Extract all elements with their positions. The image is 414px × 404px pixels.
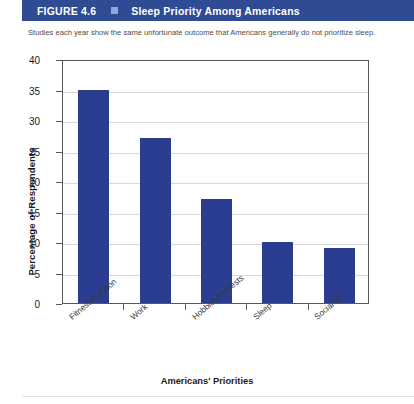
- figure-title: Sleep Priority Among Americans: [131, 5, 300, 17]
- bar: [262, 242, 293, 303]
- x-axis-category-label: Work: [128, 302, 149, 322]
- bar: [140, 138, 171, 303]
- y-axis-tick-label: 0: [0, 299, 40, 310]
- y-axis-tick-label: 5: [0, 268, 40, 279]
- x-axis-tick-mark: [123, 304, 124, 310]
- figure-number: FIGURE 4.6: [37, 5, 96, 17]
- y-axis-tick-label: 15: [0, 207, 40, 218]
- x-axis-tick-mark: [246, 304, 247, 310]
- y-axis-tick-label: 30: [0, 116, 40, 127]
- x-axis-title: Americans' Priorities: [0, 376, 414, 386]
- x-axis-tick-mark: [185, 304, 186, 310]
- bar: [78, 90, 109, 304]
- x-axis-tick-mark: [308, 304, 309, 310]
- y-axis-tick-label: 35: [0, 85, 40, 96]
- y-axis-tick-label: 20: [0, 177, 40, 188]
- square-marker-icon: [111, 7, 118, 14]
- bar-chart: Percentage of Respondents 05101520253035…: [0, 46, 414, 404]
- y-axis-tick-label: 10: [0, 238, 40, 249]
- figure-header-bar: FIGURE 4.6 Sleep Priority Among American…: [22, 0, 414, 21]
- plot-area: [62, 60, 369, 304]
- y-axis-tick-mark: [56, 304, 62, 305]
- bottom-divider: [22, 396, 414, 397]
- y-axis-tick-label: 25: [0, 146, 40, 157]
- y-axis-tick-label: 40: [0, 55, 40, 66]
- figure-caption: Studies each year show the same unfortun…: [28, 28, 403, 38]
